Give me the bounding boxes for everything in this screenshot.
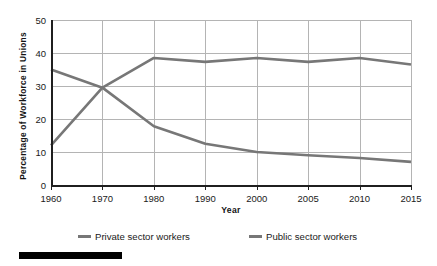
x-axis-tick-label: 2000: [246, 193, 267, 204]
data-series-layer: [51, 20, 412, 187]
legend-label: Public sector workers: [266, 231, 357, 242]
legend-swatch-icon: [249, 235, 262, 238]
y-axis-tick-label: 30: [35, 81, 46, 92]
x-axis-tick-label: 1960: [40, 193, 61, 204]
legend-item-public-sector: Public sector workers: [249, 231, 357, 242]
x-axis-title: Year: [51, 205, 411, 215]
legend-swatch-icon: [78, 235, 91, 238]
x-axis-tick-label: 2005: [298, 193, 319, 204]
y-axis-tick-label: 50: [35, 15, 46, 26]
y-axis-tick-label: 40: [35, 48, 46, 59]
chart-figure: Percentage of Workforce in Unions 010203…: [0, 0, 437, 266]
x-axis-tick-label: 1980: [143, 193, 164, 204]
legend-label: Private sector workers: [95, 231, 190, 242]
y-axis-title: Percentage of Workforce in Unions: [18, 16, 28, 196]
x-axis-tick-label: 1990: [195, 193, 216, 204]
legend-item-private-sector: Private sector workers: [78, 231, 190, 242]
chart-legend: Private sector workers Public sector wor…: [51, 231, 411, 247]
x-axis-tick-label: 2010: [349, 193, 370, 204]
plot-area: 01020304050 1960197019801990200020052010…: [51, 20, 411, 185]
x-axis-tick-label: 1970: [92, 193, 113, 204]
y-axis-line: [51, 20, 53, 186]
y-axis-tick-label: 10: [35, 147, 46, 158]
bottom-black-bar: [19, 252, 122, 259]
series-line: [51, 70, 411, 162]
y-axis-tick-label: 0: [41, 180, 46, 191]
x-axis-tick-label: 2015: [400, 193, 421, 204]
series-line: [51, 58, 411, 145]
y-axis-tick-label: 20: [35, 114, 46, 125]
x-axis-line: [51, 185, 412, 187]
